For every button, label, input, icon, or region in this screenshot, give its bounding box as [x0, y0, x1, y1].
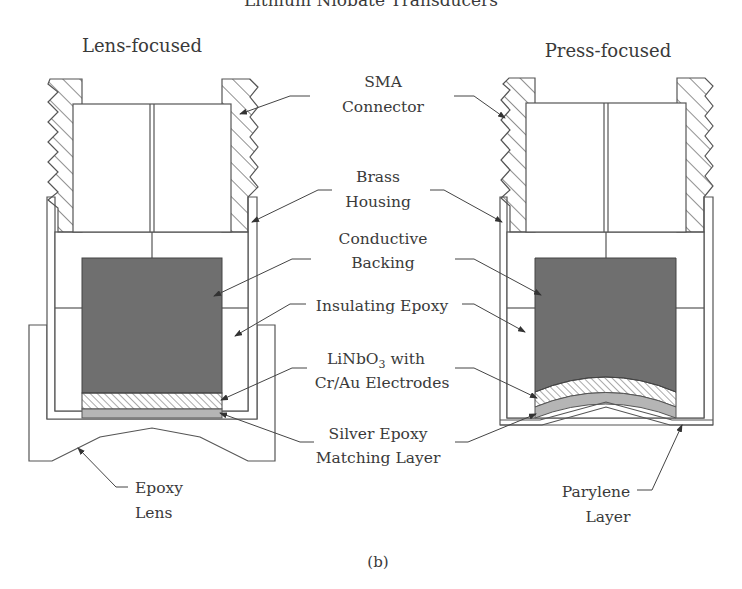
label-backing: Backing	[351, 254, 415, 272]
conductive-backing-right	[535, 258, 676, 392]
label-parylene: Parylene	[562, 483, 630, 501]
label-linbo3: LiNbO3 with	[327, 350, 425, 371]
press-focused-transducer	[500, 78, 713, 425]
label-conductive: Conductive	[339, 230, 428, 248]
figure-caption: (b)	[367, 553, 388, 571]
label-parylene-layer: Layer	[586, 508, 631, 526]
left-title: Lens-focused	[82, 35, 202, 56]
label-lens: Lens	[135, 504, 172, 522]
figure-header-partial: Lithium Niobate Transducers	[244, 0, 498, 10]
label-connector: Connector	[342, 98, 425, 116]
conductive-backing	[82, 258, 222, 393]
label-matching-layer: Matching Layer	[316, 449, 441, 467]
sma-connector-body-right	[526, 103, 686, 232]
label-brass: Brass	[356, 168, 400, 186]
transducer-diagram: Lithium Niobate Transducers Lens-focused…	[0, 0, 742, 589]
label-silver-epoxy: Silver Epoxy	[329, 425, 428, 443]
label-epoxy: Epoxy	[135, 479, 183, 497]
label-insulating-epoxy: Insulating Epoxy	[316, 297, 449, 315]
label-electrodes: Cr/Au Electrodes	[315, 374, 450, 392]
sma-connector-body	[73, 104, 231, 232]
linbo3-layer	[82, 393, 222, 409]
label-housing: Housing	[345, 193, 411, 211]
label-sma: SMA	[364, 73, 402, 91]
right-title: Press-focused	[545, 40, 672, 61]
lens-focused-transducer	[29, 79, 275, 461]
silver-epoxy-layer	[82, 409, 222, 418]
